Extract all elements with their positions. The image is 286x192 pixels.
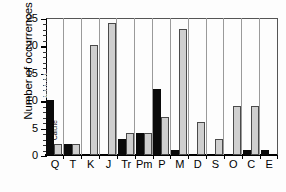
bar-group-K — [82, 18, 100, 155]
x-tick-D: D — [189, 158, 207, 170]
x-tick-Tr: Tr — [117, 158, 135, 170]
y-tick-25: 25 — [16, 13, 38, 24]
x-tick-E: E — [260, 158, 278, 170]
x-tick-K: K — [82, 158, 100, 170]
x-tick-Pm: Pm — [135, 158, 153, 170]
bar-group-S — [207, 18, 225, 155]
bar-group-Q: AragoniteCalcite — [46, 18, 64, 155]
y-tick-10: 10 — [16, 95, 38, 106]
bar-group-E — [260, 18, 278, 155]
x-tick-O: O — [224, 158, 242, 170]
bar-M-calcite — [179, 29, 187, 155]
bar-O-calcite — [233, 106, 241, 155]
chart-figure: Number of occurrences 2520151050 Aragoni… — [0, 0, 286, 192]
x-tick-T: T — [64, 158, 82, 170]
bar-Q-calcite — [54, 144, 62, 155]
x-tick-Q: Q — [46, 158, 64, 170]
x-tick-P: P — [153, 158, 171, 170]
bar-group-C — [242, 18, 260, 155]
series-label-calcite: Calcite — [51, 120, 58, 140]
bar-Tr-calcite — [126, 133, 134, 155]
bar-C-calcite — [251, 106, 259, 155]
bar-Pm-calcite — [144, 133, 152, 155]
bar-K-calcite — [90, 45, 98, 155]
bar-Tr-aragonite — [118, 139, 126, 155]
bar-group-J — [100, 18, 118, 155]
bar-T-aragonite — [64, 144, 72, 155]
x-axis-tick-labels: QTKJTrPmPMDSOCE — [46, 158, 278, 170]
x-tick-J: J — [100, 158, 118, 170]
bar-T-calcite — [72, 144, 80, 155]
bar-group-Pm — [135, 18, 153, 155]
bar-group-M — [171, 18, 189, 155]
bar-Pm-aragonite — [136, 133, 144, 155]
bar-D-calcite — [197, 122, 205, 155]
bar-group-D — [189, 18, 207, 155]
y-tick-0: 0 — [16, 150, 38, 161]
y-tick-20: 20 — [16, 40, 38, 51]
bar-group-Tr — [117, 18, 135, 155]
bar-P-aragonite — [153, 89, 161, 155]
bars-container: AragoniteCalcite — [46, 18, 278, 155]
x-tick-M: M — [171, 158, 189, 170]
bar-P-calcite — [161, 117, 169, 155]
y-axis-tick-labels: 2520151050 — [16, 0, 38, 192]
bar-group-T — [64, 18, 82, 155]
x-tick-S: S — [207, 158, 225, 170]
y-tick-15: 15 — [16, 67, 38, 78]
bar-group-P — [153, 18, 171, 155]
y-tick-5: 5 — [16, 122, 38, 133]
x-tick-C: C — [242, 158, 260, 170]
series-label-aragonite: Aragonite — [42, 70, 49, 98]
bar-group-O — [224, 18, 242, 155]
bar-J-calcite — [108, 23, 116, 155]
bar-S-calcite — [215, 139, 223, 155]
